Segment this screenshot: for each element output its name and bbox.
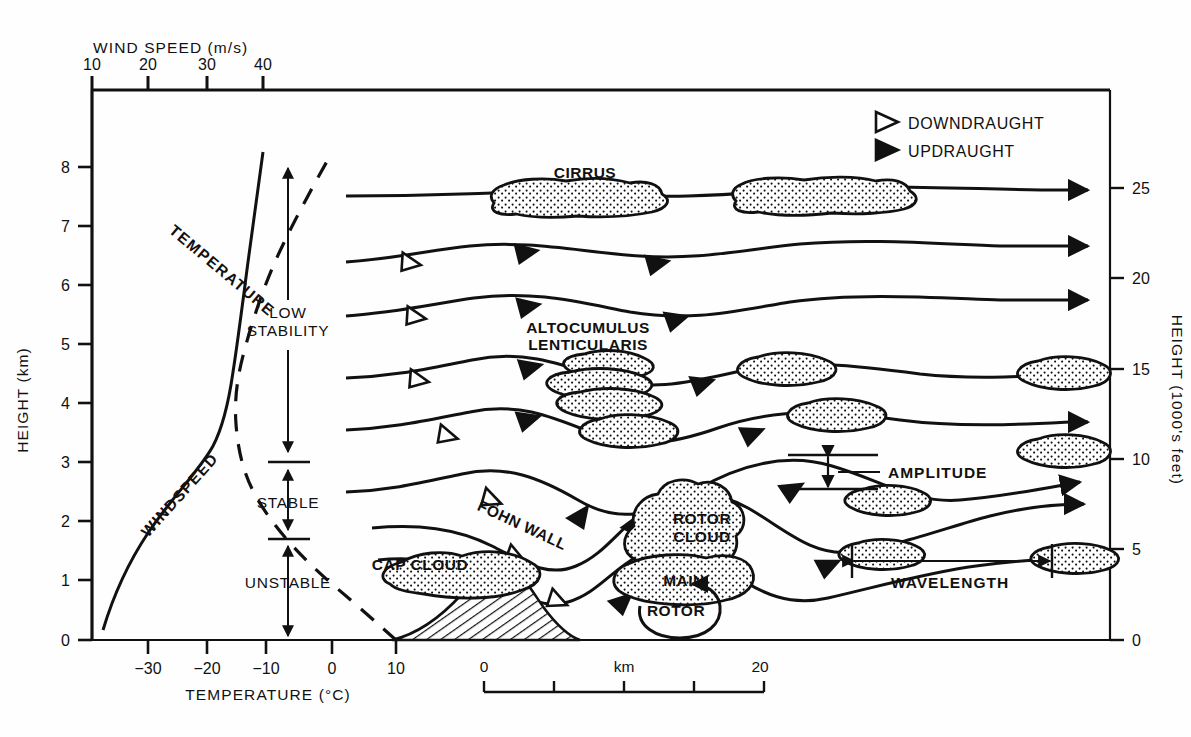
windspeed-profile-curve [103,152,263,630]
stability-label-stable: STABLE [257,494,320,511]
km-scalebar: 0 km 20 [480,658,769,692]
updraught-icon-6a [567,501,596,530]
downdraught-icon-3 [405,306,428,327]
lenticular-cloud-d [579,415,677,448]
height-feet-tick-0: 0 [1132,632,1141,649]
windspeed-tick-20: 20 [139,56,157,73]
downdraught-icon [876,112,898,132]
cirrus-cloud-right [733,177,917,215]
temperature-tick-0: 0 [328,660,337,677]
windspeed-ticks [92,76,263,90]
cloud-label-cirrus: CIRRUS [554,164,616,181]
lenticular-cloud-a [737,353,835,386]
cloud-label-main-rotor-2: ROTOR [647,602,705,619]
legend-label-updraught: UPDRAUGHT [908,143,1015,160]
stability-label-low-line1: LOW [269,304,306,321]
updraught-icon-3b [664,308,690,332]
height-km-tick-4: 4 [61,395,70,412]
streamline-3 [346,295,1088,316]
height-km-tick-2: 2 [61,513,70,530]
scalebar-start-label: 0 [480,658,489,675]
axis-right-height-feet: 0 5 10 15 20 25 HEIGHT (1000's feet) [1110,180,1186,649]
windspeed-tick-10: 10 [83,56,101,73]
scalebar-unit-label: km [614,658,635,675]
height-feet-ticks [1110,188,1124,640]
altocumulus-lenticularis-stack [547,351,662,420]
temperature-tick-m10: −10 [252,660,279,677]
temperature-ticks [148,640,396,654]
height-km-tick-1: 1 [61,572,70,589]
height-feet-tick-10: 10 [1132,451,1150,468]
cloud-label-altocumulus: ALTOCUMULUS [526,319,650,336]
downdraught-icon-5 [436,425,460,448]
temperature-tick-10: 10 [387,660,405,677]
cloud-label-cap-cloud: CAP CLOUD [372,556,468,573]
cloud-label-rotor-cloud-1: ROTOR [673,510,731,527]
lenticular-cloud-h [1031,543,1119,573]
windspeed-tick-40: 40 [254,56,272,73]
height-km-tick-0: 0 [61,632,70,649]
figure-canvas: WIND SPEED (m/s) 10 20 30 40 0 1 2 3 4 [0,0,1191,737]
height-feet-tick-25: 25 [1132,180,1150,197]
downdraught-icon-4 [407,369,430,390]
height-feet-axis-title: HEIGHT (1000's feet) [1169,315,1186,485]
stability-label-low-line2: STABILITY [247,322,330,339]
lenticular-cloud-b [1017,357,1110,390]
height-feet-tick-15: 15 [1132,361,1150,378]
wave-annotation-wavelength: WAVELENGTH [891,574,1009,591]
legend: DOWNDRAUGHT UPDRAUGHT [876,112,1044,160]
height-km-tick-7: 7 [61,218,70,235]
height-km-tick-3: 3 [61,454,70,471]
cloud-label-main-rotor-1: MAIN [663,572,705,589]
wave-annotation-amplitude: AMPLITUDE [888,464,987,481]
scalebar-end-label: 20 [751,658,769,675]
height-km-tick-6: 6 [61,277,70,294]
cloud-label-lenticularis: LENTICULARIS [528,336,648,353]
temperature-axis-title: TEMPERATURE (°C) [185,686,351,703]
temperature-tick-m20: −20 [193,660,220,677]
updraught-icon-5b [740,421,767,446]
streamline-4 [346,356,1088,385]
legend-label-downdraught: DOWNDRAUGHT [908,115,1044,132]
height-feet-tick-5: 5 [1132,541,1141,558]
height-km-tick-8: 8 [61,159,70,176]
stability-zones: LOW STABILITY STABLE UNSTABLE [245,168,331,636]
lee-wave-diagram: WIND SPEED (m/s) 10 20 30 40 0 1 2 3 4 [0,0,1191,737]
temperature-tick-m30: −30 [134,660,161,677]
temperature-curve-label: TEMPERATURE [166,221,278,319]
height-km-ticks [78,167,92,640]
cirrus-cloud-left [491,179,667,218]
windspeed-curve-label: WINDSPEED [138,449,222,540]
windspeed-axis-title: WIND SPEED (m/s) [93,39,248,56]
streamline-1 [346,187,1088,196]
axis-left-height-km: 0 1 2 3 4 5 6 7 8 HEIGHT (km) [14,159,92,649]
stability-label-unstable: UNSTABLE [245,574,331,591]
height-km-axis-title: HEIGHT (km) [14,347,31,453]
streamline-2 [346,241,1088,262]
axis-bottom-temperature: −30 −20 −10 0 10 TEMPERATURE (°C) [134,640,405,703]
lenticular-cloud-c [787,399,885,432]
cloud-label-rotor-cloud-2: CLOUD [673,528,731,545]
updraught-icon-4b [690,371,716,395]
updraught-icon [876,140,898,160]
windspeed-tick-30: 30 [198,56,216,73]
updraught-icon-3a [517,295,542,317]
height-km-tick-5: 5 [61,336,70,353]
axis-top-windspeed: WIND SPEED (m/s) 10 20 30 40 [83,39,272,90]
height-feet-tick-20: 20 [1132,270,1150,287]
lenticular-cloud-e [1017,435,1110,468]
